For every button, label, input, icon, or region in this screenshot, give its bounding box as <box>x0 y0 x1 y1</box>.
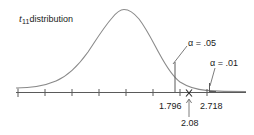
t-distribution-figure: t11distribution α = .05 α = .01 1.796 2.… <box>0 0 254 135</box>
observed-point-label: 2.08 <box>181 119 199 128</box>
leader-line-alpha-05 <box>173 46 187 64</box>
axis-label-1796: 1.796 <box>159 102 182 111</box>
axis-label-2718: 2.718 <box>200 102 223 111</box>
alpha-01-label: α = .01 <box>210 59 238 68</box>
curve-label-text: distribution <box>29 14 73 24</box>
curve-label: t11distribution <box>19 14 73 25</box>
leader-line-alpha-01 <box>210 68 215 86</box>
observed-point-arrow <box>186 99 191 117</box>
alpha-05-label: α = .05 <box>188 39 216 48</box>
